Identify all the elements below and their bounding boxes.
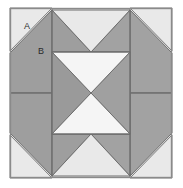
quilt-block-svg: A B	[0, 0, 183, 188]
patch-label-a: A	[24, 21, 30, 31]
patch-label-b: B	[38, 46, 44, 56]
quilt-block-diagram: A B	[0, 0, 183, 188]
